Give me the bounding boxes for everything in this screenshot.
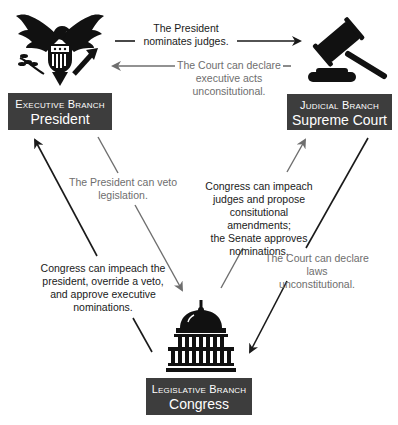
eagle-seal-icon — [14, 8, 106, 88]
legislative-branch-name: Congress — [146, 396, 252, 413]
legislative-branch-label: Legislative Branch — [146, 382, 252, 396]
gavel-icon — [300, 14, 390, 86]
executive-branch-label: Executive Branch — [8, 97, 112, 111]
arrow-legislative-to-exec — [35, 140, 152, 352]
label-legislative-to-exec: Congress can impeach the president, over… — [38, 262, 168, 314]
label-exec-to-judicial: The President nominates judges. — [136, 22, 236, 48]
legislative-branch-box: Legislative Branch Congress — [146, 378, 252, 415]
judicial-branch-box: Judicial Branch Supreme Court — [287, 94, 392, 130]
label-legislative-to-judicial: Congress can impeach judges and propose … — [200, 180, 318, 258]
judicial-branch-name: Supreme Court — [287, 112, 392, 129]
executive-branch-box: Executive Branch President — [8, 93, 112, 130]
label-judicial-to-exec: The Court can declare executive acts unc… — [176, 59, 282, 98]
label-judicial-to-legislative: The Court can declare laws unconstitutio… — [254, 252, 380, 291]
label-exec-to-legislative: The President can veto legislation. — [68, 176, 178, 202]
judicial-branch-label: Judicial Branch — [287, 98, 392, 112]
checks-and-balances-diagram: Executive Branch President Judicial Bran… — [0, 0, 398, 425]
executive-branch-name: President — [8, 111, 112, 128]
capitol-icon — [166, 300, 236, 374]
